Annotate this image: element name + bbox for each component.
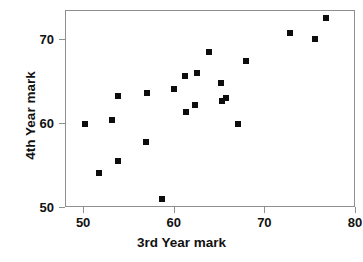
y-axis-tick bbox=[59, 207, 65, 208]
data-point bbox=[96, 170, 102, 176]
x-axis-tick bbox=[264, 207, 265, 213]
x-axis-tick-label: 60 bbox=[154, 215, 194, 230]
data-point bbox=[182, 73, 188, 79]
x-axis-tick-label: 50 bbox=[63, 215, 103, 230]
data-point bbox=[223, 95, 229, 101]
data-point bbox=[287, 30, 293, 36]
x-axis-tick-label: 80 bbox=[335, 215, 363, 230]
x-axis-tick bbox=[83, 207, 84, 213]
data-point bbox=[194, 70, 200, 76]
data-point bbox=[82, 121, 88, 127]
data-point bbox=[115, 158, 121, 164]
data-point bbox=[109, 117, 115, 123]
x-axis-label: 3rd Year mark bbox=[0, 235, 363, 250]
data-point bbox=[235, 121, 241, 127]
data-points-layer bbox=[66, 11, 354, 206]
y-axis-label: 4th Year mark bbox=[23, 26, 38, 206]
data-point bbox=[192, 102, 198, 108]
data-point bbox=[115, 93, 121, 99]
scatter-plot-figure: 506070 50607080 3rd Year mark 4th Year m… bbox=[0, 0, 363, 262]
data-point bbox=[243, 58, 249, 64]
data-point bbox=[171, 86, 177, 92]
data-point bbox=[144, 90, 150, 96]
data-point bbox=[159, 196, 165, 202]
data-point bbox=[206, 49, 212, 55]
data-point bbox=[143, 139, 149, 145]
data-point bbox=[323, 15, 329, 21]
data-point bbox=[312, 36, 318, 42]
x-axis-tick-label: 70 bbox=[244, 215, 284, 230]
data-point bbox=[218, 80, 224, 86]
x-axis-tick bbox=[355, 207, 356, 213]
data-point bbox=[183, 109, 189, 115]
x-axis-tick bbox=[174, 207, 175, 213]
plot-area bbox=[65, 10, 355, 207]
